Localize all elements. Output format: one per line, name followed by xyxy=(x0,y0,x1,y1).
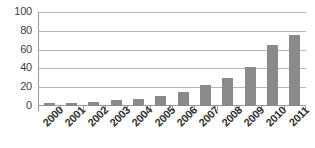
x-label-cell: 2002 xyxy=(83,110,105,148)
bar-2008[interactable] xyxy=(222,78,233,106)
x-label-cell: 2010 xyxy=(261,110,283,148)
bar-slot xyxy=(83,12,105,106)
bar-slot xyxy=(194,12,216,106)
y-tick-label-100: 100 xyxy=(0,6,32,17)
y-axis: 100 80 60 40 20 0 xyxy=(0,0,36,148)
x-axis: 2000200120022003200420052006200720082009… xyxy=(38,110,306,148)
x-label-cell: 2005 xyxy=(150,110,172,148)
x-label-cell: 2009 xyxy=(239,110,261,148)
bar-2004[interactable] xyxy=(133,99,144,106)
bar-slot xyxy=(239,12,261,106)
x-label-cell: 2006 xyxy=(172,110,194,148)
bar-slot xyxy=(60,12,82,106)
bar-2005[interactable] xyxy=(155,96,166,106)
bar-2007[interactable] xyxy=(200,85,211,106)
x-label-cell: 2000 xyxy=(38,110,60,148)
bar-slot xyxy=(38,12,60,106)
bars-layer xyxy=(38,12,306,106)
x-label-cell: 2011 xyxy=(284,110,306,148)
x-label-cell: 2007 xyxy=(194,110,216,148)
bar-2010[interactable] xyxy=(267,45,278,106)
bar-slot xyxy=(150,12,172,106)
bar-2009[interactable] xyxy=(245,67,256,106)
x-label-cell: 2004 xyxy=(127,110,149,148)
bar-2006[interactable] xyxy=(178,92,189,106)
x-label-cell: 2001 xyxy=(60,110,82,148)
y-tick-label-40: 40 xyxy=(0,62,32,73)
bar-chart: 100 80 60 40 20 0 2000200120022003200420… xyxy=(0,0,315,148)
bar-slot xyxy=(217,12,239,106)
y-tick-label-80: 80 xyxy=(0,25,32,36)
plot-area xyxy=(38,12,306,106)
x-label-cell: 2008 xyxy=(217,110,239,148)
bar-slot xyxy=(261,12,283,106)
bar-slot xyxy=(172,12,194,106)
bar-slot xyxy=(105,12,127,106)
y-tick-label-0: 0 xyxy=(0,100,32,111)
y-tick-label-60: 60 xyxy=(0,44,32,55)
bar-slot xyxy=(284,12,306,106)
x-label-cell: 2003 xyxy=(105,110,127,148)
y-tick-label-20: 20 xyxy=(0,81,32,92)
bar-2011[interactable] xyxy=(289,35,300,106)
bar-slot xyxy=(127,12,149,106)
